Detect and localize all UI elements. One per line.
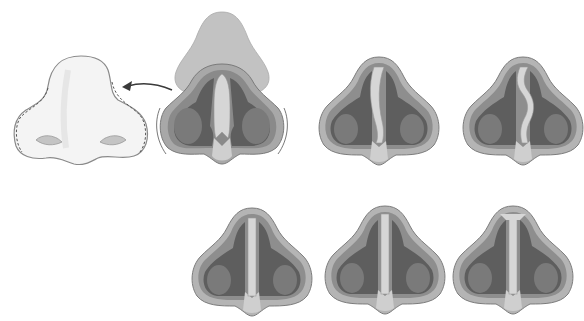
septum-deviated-c-figure [314,55,444,167]
external-nose-figure [6,52,156,167]
septum-deviated-s-figure [458,55,584,167]
external-nose-illustration [6,52,156,167]
septum-straight-3-illustration [448,204,578,316]
septum-deviated-c-illustration [314,55,444,167]
dissected-nose-illustration [152,8,292,168]
septum-straight-2-figure [320,204,450,316]
septum-straight-2-illustration [320,204,450,316]
septum-deviated-s-illustration [458,55,584,167]
septum-straight-1-illustration [187,206,317,318]
septum-straight-3-figure [448,204,578,316]
septum-straight-1-figure [187,206,317,318]
dissected-nose-figure [152,8,292,168]
